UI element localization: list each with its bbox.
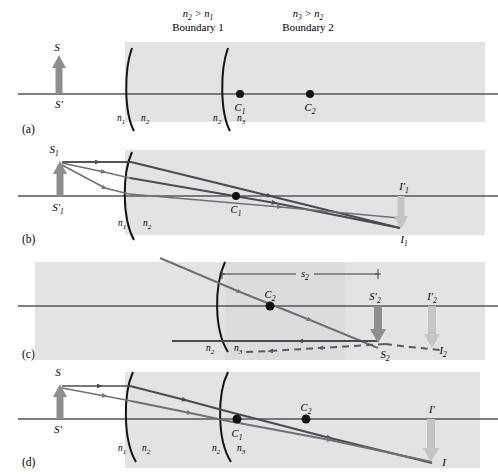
panel-a-medium-label-n1: n1	[117, 113, 125, 126]
panel-b-medium-region	[125, 150, 485, 235]
panel-b: S1 S′1 C1 I′1 I1 n1 n2 (b)	[18, 143, 498, 248]
panel-b-object-label-s1: S1	[49, 143, 58, 158]
panel-a-caption: (a)	[22, 123, 35, 136]
panel-a-object-arrow	[52, 55, 66, 94]
panel-d-image-label-i-prime: I′	[428, 404, 435, 415]
panel-d-incident-ray-2	[62, 388, 131, 401]
panel-a-center-c1-dot	[236, 90, 244, 98]
panel-d-object-label-s-prime: S′	[54, 423, 63, 435]
panel-a-boundary1-title: Boundary 1	[172, 21, 224, 33]
panel-a-center-c2-dot	[306, 90, 314, 98]
panel-b-object-label-s1-prime: S′1	[52, 201, 64, 216]
panel-a-object-label-s-prime: S′	[55, 98, 64, 110]
panel-a-boundary2-title: Boundary 2	[282, 21, 334, 33]
panel-c-center-c2-dot	[266, 302, 275, 311]
panel-d-medium-label-n1: n1	[118, 443, 126, 456]
panel-d-center-c2-dot	[302, 415, 311, 424]
panel-b-caption: (b)	[22, 233, 36, 246]
panel-d: S S′ C1 C2 I′ I n1 n2 n2 n3 (d)	[18, 366, 498, 469]
panel-b-incident-ray-3	[62, 165, 129, 194]
panel-d-caption: (d)	[22, 456, 36, 469]
panel-a-boundary2-relation: n3 > n2	[293, 8, 324, 22]
optics-figure: n2 > n1 Boundary 1 n3 > n2 Boundary 2 S …	[0, 0, 498, 476]
panel-a-boundary1-relation: n2 > n1	[183, 8, 213, 22]
panel-c-caption: (c)	[22, 348, 35, 361]
panel-b-medium-label-n1: n1	[118, 218, 126, 231]
panel-a-object-label-s: S	[54, 41, 60, 53]
panel-d-center-c1-dot	[233, 415, 242, 424]
panel-c: s2 C2 S′2 I′2 S2	[18, 258, 498, 363]
panel-a: n2 > n1 Boundary 1 n3 > n2 Boundary 2 S …	[18, 8, 498, 136]
panel-b-image-label-i1: I1	[399, 234, 407, 248]
panel-b-center-c1-dot	[232, 192, 240, 200]
panel-d-object-label-s: S	[55, 366, 61, 378]
panel-d-image-label-i: I	[441, 457, 446, 468]
